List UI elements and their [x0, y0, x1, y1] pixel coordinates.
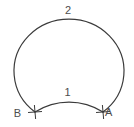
point-b-cross-horizontal — [28, 111, 42, 112]
point-a-label: A — [105, 106, 113, 118]
major-arc-label: 2 — [65, 4, 71, 16]
point-b-cross-marker — [27, 104, 42, 119]
major-arc — [14, 19, 124, 112]
geometry-figure: 2 1 B A — [0, 0, 134, 127]
diagram-canvas: 2 1 B A — [0, 0, 134, 127]
minor-arc-label: 1 — [64, 86, 70, 98]
point-b-label: B — [14, 107, 21, 119]
minor-arc — [35, 102, 103, 112]
